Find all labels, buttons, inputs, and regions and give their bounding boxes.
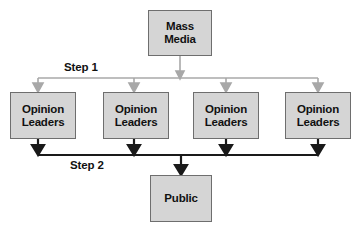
step-1-label: Step 1 bbox=[62, 61, 100, 74]
step2-arrowhead-3 bbox=[220, 145, 232, 155]
node-opinion-leaders-2[interactable]: Opinion Leaders bbox=[103, 92, 169, 139]
node-opinion-leaders-1-line2: Leaders bbox=[22, 116, 65, 129]
node-opinion-leaders-4-line1: Opinion bbox=[297, 103, 339, 116]
two-step-flow-diagram: Mass Media Step 1 Step 2 Opinion Leaders… bbox=[0, 0, 354, 229]
node-opinion-leaders-1-line1: Opinion bbox=[22, 103, 64, 116]
step2-arrowhead-1 bbox=[32, 145, 44, 155]
node-opinion-leaders-2-line1: Opinion bbox=[115, 103, 157, 116]
public-arrowhead bbox=[175, 165, 187, 175]
node-opinion-leaders-4[interactable]: Opinion Leaders bbox=[285, 92, 351, 139]
node-opinion-leaders-2-line2: Leaders bbox=[115, 116, 158, 129]
step-2-label: Step 2 bbox=[68, 159, 106, 172]
node-opinion-leaders-3[interactable]: Opinion Leaders bbox=[193, 92, 259, 139]
node-opinion-leaders-4-line2: Leaders bbox=[297, 116, 340, 129]
node-public[interactable]: Public bbox=[150, 175, 212, 222]
node-mass-media-line2: Media bbox=[164, 33, 196, 46]
node-opinion-leaders-1[interactable]: Opinion Leaders bbox=[10, 92, 76, 139]
node-mass-media[interactable]: Mass Media bbox=[148, 10, 212, 56]
step2-arrowhead-2 bbox=[128, 145, 140, 155]
node-public-line1: Public bbox=[164, 192, 197, 205]
node-opinion-leaders-3-line2: Leaders bbox=[205, 116, 248, 129]
node-mass-media-line1: Mass bbox=[166, 20, 194, 33]
step2-arrowhead-4 bbox=[312, 145, 324, 155]
node-opinion-leaders-3-line1: Opinion bbox=[205, 103, 247, 116]
